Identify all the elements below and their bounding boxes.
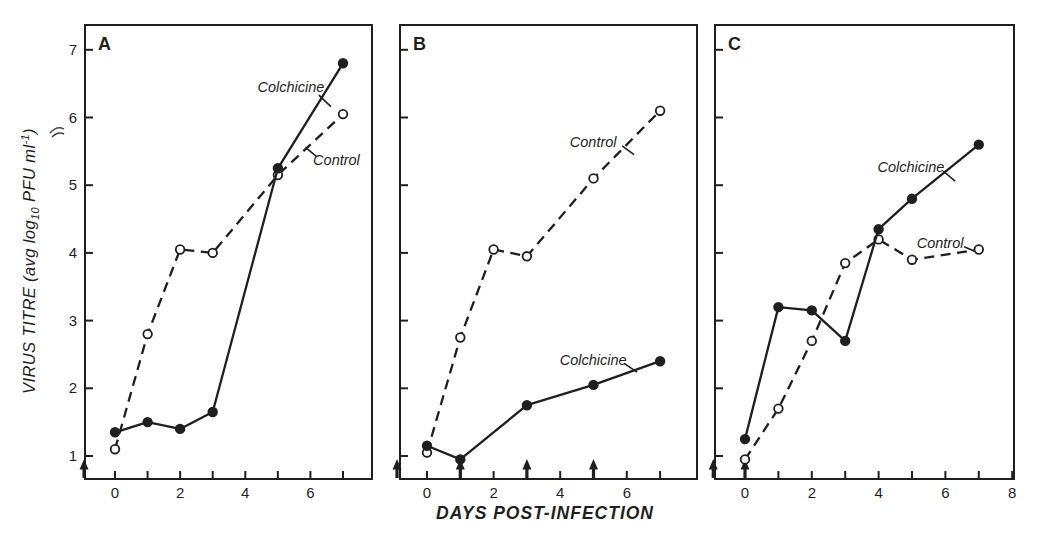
control-data-point	[523, 252, 532, 261]
panel-frame	[400, 25, 697, 479]
panel-frame	[85, 25, 372, 479]
y-tick-label: 2	[69, 379, 77, 396]
virus-titre-figure: 12345670246ColchicineControlA0246Control…	[0, 0, 1064, 549]
treatment-arrow-icon	[80, 459, 89, 478]
x-axis-title: DAYS POST-INFECTION	[400, 503, 690, 524]
y-tick-label: 1	[69, 447, 77, 464]
x-tick-label: 2	[489, 484, 497, 501]
control-line	[115, 114, 343, 449]
scan-artifact	[50, 128, 64, 137]
x-tick-label: 6	[941, 484, 949, 501]
y-tick-label: 4	[69, 244, 77, 261]
x-tick-label: 6	[306, 484, 314, 501]
y-axis-title: VIRUS TITRE (avg log10 PFU ml-1)	[19, 31, 41, 491]
control-data-point	[143, 330, 152, 339]
colchicine-data-point	[143, 418, 152, 427]
x-tick-label: 0	[111, 484, 119, 501]
colchicine-data-point	[339, 59, 348, 68]
colchicine-data-point	[656, 357, 665, 366]
colchicine-data-point	[274, 164, 283, 173]
colchicine-data-point	[111, 428, 120, 437]
colchicine-data-point	[523, 401, 532, 410]
x-tick-label: 4	[556, 484, 564, 501]
control-data-point	[208, 249, 217, 258]
y-axis-title-subscript: 10	[29, 207, 41, 220]
control-data-point	[975, 245, 984, 254]
colchicine-data-point	[908, 194, 917, 203]
y-tick-label: 7	[69, 41, 77, 58]
colchicine-line	[745, 145, 979, 440]
treatment-arrow-icon	[709, 459, 718, 478]
colchicine-data-point	[808, 306, 817, 315]
colchicine-data-point	[456, 455, 465, 464]
control-data-point	[111, 445, 120, 454]
panel-frame	[715, 25, 1014, 479]
colchicine-line	[427, 361, 660, 459]
series-label-control: Control	[917, 235, 965, 251]
colchicine-data-point	[176, 425, 185, 434]
panel-letter-c: C	[728, 34, 741, 54]
control-data-point	[841, 259, 850, 268]
y-axis-title-mid: PFU ml	[20, 145, 38, 207]
chart-canvas: 12345670246ColchicineControlA0246Control…	[0, 0, 1064, 549]
series-label-control: Control	[313, 152, 361, 168]
x-tick-label: 4	[241, 484, 249, 501]
control-data-point	[908, 255, 917, 264]
panel-letter-a: A	[98, 34, 111, 54]
y-tick-label: 3	[69, 312, 77, 329]
y-tick-label: 5	[69, 176, 77, 193]
series-label-colchicine: Colchicine	[257, 79, 324, 95]
panel-A: 12345670246ColchicineControlA	[69, 25, 372, 501]
x-tick-label: 4	[874, 484, 882, 501]
treatment-arrow-icon	[522, 459, 531, 478]
panel-B: 0246ControlColchicineB	[393, 25, 697, 501]
colchicine-line	[115, 63, 343, 432]
y-axis-title-text: VIRUS TITRE (avg log	[20, 220, 38, 394]
colchicine-data-point	[975, 140, 984, 149]
x-tick-label: 0	[423, 484, 431, 501]
control-data-point	[339, 110, 348, 119]
control-data-point	[808, 337, 817, 346]
colchicine-data-point	[589, 381, 598, 390]
colchicine-data-point	[874, 225, 883, 234]
control-data-point	[456, 333, 465, 342]
colchicine-data-point	[774, 303, 783, 312]
control-data-point	[656, 106, 665, 115]
label-connector	[622, 146, 634, 155]
control-data-point	[176, 245, 185, 254]
label-connector	[964, 247, 974, 251]
control-data-point	[774, 404, 783, 413]
y-tick-label: 6	[69, 109, 77, 126]
label-connector	[943, 171, 955, 181]
colchicine-data-point	[208, 408, 217, 417]
x-tick-label: 0	[741, 484, 749, 501]
series-label-control: Control	[570, 134, 618, 150]
x-tick-label: 2	[176, 484, 184, 501]
control-data-point	[741, 455, 750, 464]
x-tick-label: 2	[808, 484, 816, 501]
x-tick-label: 8	[1008, 484, 1016, 501]
colchicine-data-point	[841, 337, 850, 346]
series-label-colchicine: Colchicine	[560, 352, 627, 368]
x-tick-label: 6	[623, 484, 631, 501]
panel-letter-b: B	[413, 34, 426, 54]
y-axis-title-superscript: -1	[19, 134, 31, 145]
y-axis-title-suffix: )	[20, 128, 38, 134]
panel-C: 02468ColchicineControlC	[709, 25, 1017, 501]
treatment-arrow-icon	[589, 459, 598, 478]
colchicine-data-point	[423, 442, 432, 451]
colchicine-data-point	[741, 435, 750, 444]
series-label-colchicine: Colchicine	[878, 159, 945, 175]
control-data-point	[589, 174, 598, 183]
control-data-point	[489, 245, 498, 254]
control-line	[745, 239, 979, 459]
